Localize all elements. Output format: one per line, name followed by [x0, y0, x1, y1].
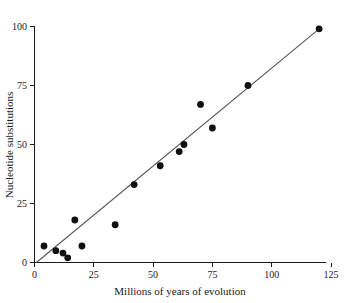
y-axis-ticks [30, 27, 35, 263]
x-axis-tick-labels: 0 25 50 75 100 125 [32, 269, 339, 280]
y-tick-label-25: 25 [17, 198, 27, 209]
scatter-plot-svg: 0 25 50 75 100 0 25 50 75 100 125 Millio… [0, 0, 350, 303]
y-tick-label-0: 0 [22, 257, 27, 268]
data-point [131, 181, 138, 188]
data-point [52, 247, 59, 254]
data-point [176, 148, 183, 155]
data-point [209, 125, 216, 132]
data-point [112, 221, 119, 228]
x-tick-label-125: 125 [324, 269, 339, 280]
x-tick-label-50: 50 [148, 269, 158, 280]
data-point [41, 243, 48, 250]
data-point [79, 243, 86, 250]
y-tick-label-75: 75 [17, 80, 27, 91]
data-point [71, 217, 78, 224]
data-point [316, 25, 323, 32]
x-axis-title: Millions of years of evolution [114, 285, 246, 297]
data-point [64, 254, 71, 261]
y-tick-label-50: 50 [17, 139, 27, 150]
data-point [181, 141, 188, 148]
x-tick-label-100: 100 [264, 269, 279, 280]
x-axis-ticks [35, 263, 332, 268]
x-tick-label-25: 25 [89, 269, 99, 280]
x-tick-label-0: 0 [32, 269, 37, 280]
data-point [197, 101, 204, 108]
x-tick-label-75: 75 [207, 269, 217, 280]
trend-line [36, 29, 319, 263]
data-point [245, 82, 252, 89]
y-axis-title: Nucleotide substitutions [3, 92, 15, 199]
data-point [157, 162, 164, 169]
scatter-chart-figure: 0 25 50 75 100 0 25 50 75 100 125 Millio… [0, 0, 350, 303]
y-tick-label-100: 100 [12, 21, 27, 32]
